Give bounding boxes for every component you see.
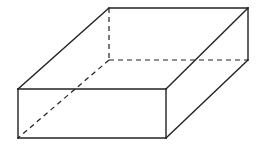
visible-edges: [18, 8, 248, 138]
edge-front-top-left-to-back-top-left: [18, 8, 109, 89]
hidden-edge-back-bottom-left-to-front-bottom-left: [18, 60, 109, 138]
cuboid-diagram: [0, 0, 261, 155]
edge-back-top-right-to-front-top-right: [166, 8, 248, 89]
hidden-edges: [18, 8, 248, 138]
cuboid-drawing: [0, 0, 261, 155]
edge-back-bottom-right-to-front-bottom-right: [166, 60, 248, 138]
